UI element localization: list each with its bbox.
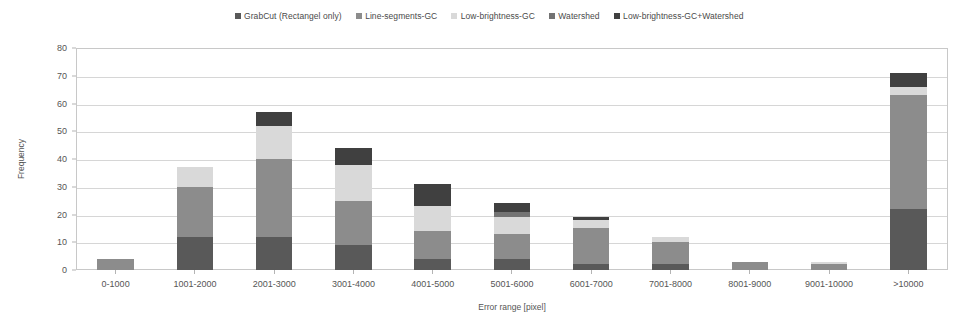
- y-tick-label: 30: [57, 182, 67, 192]
- bar-segment[interactable]: [335, 148, 371, 165]
- x-tick: 2001-3000: [235, 270, 314, 289]
- bar-segment[interactable]: [494, 259, 530, 270]
- chart-legend: GrabCut (Rectangel only)Line-segments-GC…: [0, 11, 978, 21]
- bar-segment[interactable]: [494, 217, 530, 234]
- stacked-bar[interactable]: [494, 203, 530, 270]
- stacked-bar[interactable]: [811, 262, 847, 270]
- bar-segment[interactable]: [890, 73, 926, 87]
- x-tick: 5001-6000: [472, 270, 551, 289]
- stacked-bar[interactable]: [414, 184, 450, 270]
- x-tick-label: 5001-6000: [490, 279, 533, 289]
- legend-entry: GrabCut (Rectangel only): [235, 11, 342, 21]
- x-tick-mark: [511, 270, 512, 274]
- y-tick-label: 60: [57, 99, 67, 109]
- bar-segment[interactable]: [414, 259, 450, 270]
- bar-segment[interactable]: [890, 95, 926, 209]
- stacked-bar-chart: GrabCut (Rectangel only)Line-segments-GC…: [0, 0, 978, 330]
- bar-slot: [552, 48, 631, 270]
- stacked-bar[interactable]: [97, 259, 133, 270]
- x-tick-mark: [194, 270, 195, 274]
- bar-segment[interactable]: [652, 242, 688, 264]
- bars-layer: [76, 48, 948, 270]
- x-tick: 0-1000: [76, 270, 155, 289]
- y-tick-label: 50: [57, 126, 67, 136]
- legend-entry: Line-segments-GC: [356, 11, 438, 21]
- legend-swatch-icon: [614, 13, 620, 19]
- bar-segment[interactable]: [494, 234, 530, 259]
- stacked-bar[interactable]: [890, 73, 926, 270]
- bar-segment[interactable]: [177, 187, 213, 237]
- x-tick: 7001-8000: [631, 270, 710, 289]
- bar-segment[interactable]: [414, 184, 450, 206]
- bar-segment[interactable]: [890, 87, 926, 95]
- bar-segment[interactable]: [890, 209, 926, 270]
- y-axis: 01020304050607080: [0, 48, 76, 270]
- stacked-bar[interactable]: [573, 217, 609, 270]
- bar-segment[interactable]: [414, 231, 450, 259]
- x-tick-mark: [274, 270, 275, 274]
- bar-segment[interactable]: [335, 201, 371, 245]
- bar-segment[interactable]: [256, 126, 292, 159]
- stacked-bar[interactable]: [256, 112, 292, 270]
- bar-segment[interactable]: [97, 259, 133, 270]
- x-axis-title: Error range [pixel]: [76, 302, 948, 312]
- legend-label: Low-brightness-GC: [461, 11, 535, 21]
- x-tick-mark: [432, 270, 433, 274]
- x-tick-label: 8001-9000: [728, 279, 771, 289]
- y-tick-label: 40: [57, 154, 67, 164]
- bar-segment[interactable]: [335, 165, 371, 201]
- x-tick: 3001-4000: [314, 270, 393, 289]
- bar-slot: [314, 48, 393, 270]
- bar-segment[interactable]: [494, 203, 530, 211]
- bar-segment[interactable]: [256, 159, 292, 237]
- stacked-bar[interactable]: [732, 262, 768, 270]
- x-tick-mark: [115, 270, 116, 274]
- x-tick-mark: [670, 270, 671, 274]
- bar-segment[interactable]: [335, 245, 371, 270]
- bar-slot: [631, 48, 710, 270]
- x-tick: 6001-7000: [552, 270, 631, 289]
- x-tick-mark: [591, 270, 592, 274]
- legend-label: Line-segments-GC: [365, 11, 437, 21]
- stacked-bar[interactable]: [652, 237, 688, 270]
- legend-swatch-icon: [235, 13, 241, 19]
- bar-segment[interactable]: [177, 237, 213, 270]
- x-tick-label: 0-1000: [102, 279, 130, 289]
- bar-slot: [869, 48, 948, 270]
- bar-slot: [789, 48, 868, 270]
- legend-swatch-icon: [451, 13, 457, 19]
- x-tick-label: >10000: [893, 279, 923, 289]
- bar-slot: [155, 48, 234, 270]
- x-axis: 0-10001001-20002001-30003001-40004001-50…: [76, 270, 948, 289]
- y-tick-label: 70: [57, 71, 67, 81]
- x-tick-mark: [908, 270, 909, 274]
- x-tick-label: 4001-5000: [411, 279, 454, 289]
- bar-slot: [76, 48, 155, 270]
- legend-entry: Low-brightness-GC: [451, 11, 535, 21]
- stacked-bar[interactable]: [335, 148, 371, 270]
- x-tick-label: 6001-7000: [570, 279, 613, 289]
- bar-segment[interactable]: [256, 112, 292, 126]
- legend-label: GrabCut (Rectangel only): [244, 11, 342, 21]
- legend-entry: Watershed: [549, 11, 600, 21]
- x-tick-label: 9001-10000: [805, 279, 853, 289]
- bar-segment[interactable]: [732, 262, 768, 270]
- y-tick-label: 0: [62, 265, 67, 275]
- x-tick-label: 1001-2000: [173, 279, 216, 289]
- bar-segment[interactable]: [256, 237, 292, 270]
- x-tick-label: 2001-3000: [253, 279, 296, 289]
- bar-segment[interactable]: [573, 220, 609, 228]
- legend-entry: Low-brightness-GC+Watershed: [614, 11, 744, 21]
- x-tick-mark: [353, 270, 354, 274]
- bar-segment[interactable]: [573, 228, 609, 264]
- stacked-bar[interactable]: [177, 167, 213, 270]
- y-tick-label: 20: [57, 210, 67, 220]
- bar-segment[interactable]: [414, 206, 450, 231]
- bar-slot: [710, 48, 789, 270]
- x-tick: >10000: [869, 270, 948, 289]
- legend-label: Watershed: [558, 11, 599, 21]
- x-tick-label: 7001-8000: [649, 279, 692, 289]
- y-tick-label: 10: [57, 237, 67, 247]
- bar-segment[interactable]: [177, 167, 213, 186]
- x-tick-mark: [749, 270, 750, 274]
